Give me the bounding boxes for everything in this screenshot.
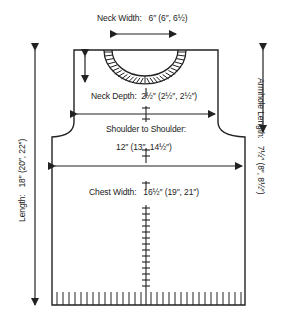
neck-width-title: Neck Width:	[97, 13, 142, 23]
armhole-length-label: Armhole Length: 7½″ (8″, 8½″)	[256, 78, 266, 195]
length-value: 18″ (20″, 22″)	[17, 139, 27, 188]
armhole-length-value: 7½″ (8″, 8½″)	[256, 146, 266, 195]
chest-width-value: 16½″ (19″, 21″)	[143, 187, 199, 197]
garment-outline	[52, 50, 245, 305]
neck-width-value: 6″ (6″, 6½)	[149, 13, 188, 23]
neck-depth-title: Neck Depth:	[91, 91, 137, 101]
shoulder-value: 12″ (13″, 14½″)	[116, 142, 172, 152]
neckline-ribbing	[104, 50, 186, 84]
length-label: Length: 18″ (20″, 22″)	[17, 139, 27, 222]
neck-depth-value: 2½″ (2½″, 2½″)	[141, 91, 197, 101]
armhole-length-title: Armhole Length:	[256, 78, 266, 139]
neck-width-label: Neck Width: 6″ (6″, 6½)	[97, 13, 187, 23]
hem-ribbing	[57, 292, 241, 305]
length-title: Length:	[17, 194, 27, 222]
chest-width-label: Chest Width: 16½″ (19″, 21″)	[89, 187, 199, 197]
schematic-drawing	[0, 0, 281, 319]
chest-width-title: Chest Width:	[89, 187, 136, 197]
shoulder-title: Shoulder to Shoulder:	[106, 124, 186, 134]
neck-depth-label: Neck Depth: 2½″ (2½″, 2½″)	[91, 91, 197, 101]
